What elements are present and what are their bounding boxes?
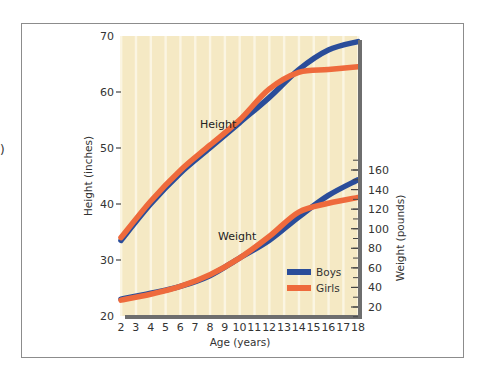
x-tick-label: 3: [132, 321, 139, 334]
right-tick-label: 160: [368, 164, 389, 177]
x-tick-label: 2: [118, 321, 125, 334]
left-axis-ticks: 706050403020: [100, 30, 121, 323]
legend-swatch-girls: [287, 285, 311, 291]
left-tick-label: 50: [100, 142, 114, 155]
x-axis-title: Age (years): [210, 336, 271, 348]
legend-label-girls: Girls: [316, 282, 340, 294]
x-axis-ticks: 23456789101112131415161718: [118, 321, 366, 334]
legend-swatch-boys: [287, 269, 311, 275]
right-tick-label: 80: [368, 242, 382, 255]
left-tick-label: 30: [100, 254, 114, 267]
height-curve-label: Height: [200, 118, 237, 131]
legend-label-boys: Boys: [316, 266, 341, 278]
right-tick-label: 60: [368, 262, 382, 275]
x-tick-label: 10: [233, 321, 247, 334]
right-tick-label: 140: [368, 184, 389, 197]
right-tick-label: 20: [368, 301, 382, 314]
left-tick-label: 60: [100, 86, 114, 99]
x-tick-label: 13: [277, 321, 291, 334]
x-tick-label: 8: [206, 321, 213, 334]
right-tick-label: 100: [368, 223, 389, 236]
left-tick-label: 70: [100, 30, 114, 43]
x-tick-label: 15: [307, 321, 321, 334]
right-tick-label: 40: [368, 281, 382, 294]
x-tick-label: 16: [321, 321, 335, 334]
x-tick-label: 18: [351, 321, 365, 334]
x-tick-label: 12: [262, 321, 276, 334]
left-axis-title: Height (inches): [82, 136, 94, 216]
x-tick-label: 9: [221, 321, 228, 334]
x-tick-label: 6: [177, 321, 184, 334]
x-tick-label: 7: [192, 321, 199, 334]
x-tick-label: 14: [292, 321, 306, 334]
weight-curve-label: Weight: [218, 230, 257, 243]
left-tick-label: 20: [100, 310, 114, 323]
right-axis-title: Weight (pounds): [394, 195, 406, 282]
growth-chart: 706050403020 16014012010080604020 234567…: [0, 0, 487, 378]
right-tick-label: 120: [368, 203, 389, 216]
x-tick-label: 4: [147, 321, 154, 334]
x-tick-label: 11: [247, 321, 261, 334]
left-tick-label: 40: [100, 198, 114, 211]
x-tick-label: 5: [162, 321, 169, 334]
x-tick-label: 17: [336, 321, 350, 334]
